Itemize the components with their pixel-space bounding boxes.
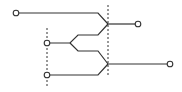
node-in-mid-icon: [44, 40, 50, 46]
connector-paths: [19, 13, 167, 75]
node-in-bottom-icon: [44, 72, 50, 78]
path-top: [19, 13, 108, 24]
path-fork-up: [50, 24, 108, 43]
path-fork-down: [70, 43, 108, 64]
diagram-canvas: [0, 0, 182, 92]
terminal-nodes: [13, 10, 173, 78]
node-out-top-icon: [135, 21, 141, 27]
path-bottom: [50, 64, 108, 75]
node-out-bottom-icon: [167, 61, 173, 67]
node-in-top-icon: [13, 10, 19, 16]
